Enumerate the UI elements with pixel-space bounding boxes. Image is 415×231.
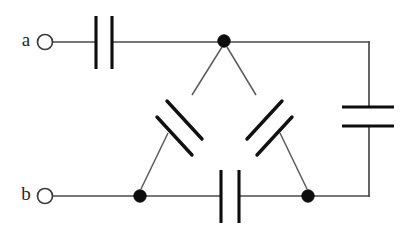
wire-right-leg-lower (280, 133, 307, 189)
capacitor-right (342, 107, 394, 126)
capacitor-right-diagonal (247, 101, 292, 155)
junction-nodes (134, 35, 314, 202)
terminal-a-ring (38, 35, 53, 50)
node-bottom-left (134, 190, 146, 202)
capacitor-top (96, 16, 112, 69)
terminal-a: a (22, 29, 53, 50)
wire-left-leg-upper (192, 47, 222, 95)
terminal-b-label: b (21, 183, 31, 204)
terminal-b: b (21, 183, 52, 204)
wire-right-leg-upper (227, 47, 256, 95)
terminal-b-ring (38, 189, 53, 204)
wire-group-diagonal (141, 47, 307, 189)
capacitor-bottom (221, 170, 239, 223)
wire-left-leg-lower (141, 133, 168, 189)
circuit-schematic: a b (0, 0, 415, 231)
node-bottom-right (302, 190, 314, 202)
node-top (218, 35, 230, 47)
circuit-diagram-canvas: a b (0, 0, 415, 231)
capacitor-left-diagonal (157, 101, 202, 155)
terminal-a-label: a (22, 29, 31, 50)
